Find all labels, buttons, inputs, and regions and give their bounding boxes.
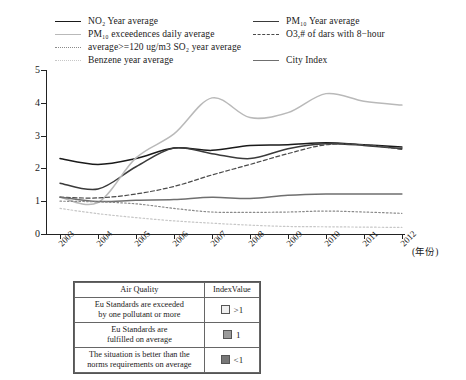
legend-item[interactable]: average>=120 ug/m3 SO₂ year average (55, 41, 241, 54)
table-row: Eu Standards arefulfilled on average1 (75, 323, 260, 348)
table-column-header: IndexValue (204, 283, 259, 298)
air-quality-index-table: Air QualityIndexValueEu Standards are ex… (73, 281, 261, 374)
legend-line-sample-icon (253, 31, 279, 39)
table-row: The situation is better than thenorms re… (75, 348, 260, 373)
index-value-cell: 1 (204, 323, 259, 348)
legend-item-label: NO₂ Year average (88, 16, 158, 27)
air-quality-description: Eu Standards arefulfilled on average (75, 323, 205, 348)
y-axis-tick-label: 3 (26, 131, 40, 141)
y-axis-tick-label: 0 (26, 229, 40, 239)
legend-item-label: PM₁₀ exceedences daily average (88, 29, 214, 40)
legend-item[interactable]: O3,# of dars with 8−hour (253, 28, 385, 41)
air-quality-description: The situation is better than thenorms re… (75, 348, 205, 373)
legend-line-sample-icon (55, 44, 81, 52)
table-column-header: Air Quality (75, 283, 205, 298)
data-series-line (60, 143, 402, 165)
table-header-row: Air QualityIndexValue (75, 283, 260, 298)
index-value-label: <1 (234, 355, 244, 365)
index-value-label: 1 (236, 330, 241, 340)
data-series-line (60, 194, 402, 202)
y-axis-tick (41, 234, 46, 235)
legend-line-sample-icon (55, 18, 81, 26)
y-axis-tick-label: 1 (26, 196, 40, 206)
color-swatch-icon (223, 330, 232, 339)
y-axis-tick-label: 4 (26, 98, 40, 108)
legend-line-sample-icon (253, 18, 279, 26)
x-axis-unit-label: (年份) (412, 244, 438, 258)
color-swatch-icon (221, 305, 230, 314)
y-axis-tick-label: 5 (26, 65, 40, 75)
legend-item[interactable]: PM₁₀ Year average (253, 15, 360, 28)
data-series-line (60, 201, 402, 213)
chart-area: 012345 200320042005200620072008200920102… (0, 62, 466, 262)
color-swatch-icon (221, 355, 230, 364)
legend-item-label: O3,# of dars with 8−hour (286, 29, 385, 40)
data-series-line (60, 208, 402, 227)
data-series-line (60, 93, 402, 204)
legend-item[interactable]: NO₂ Year average (55, 15, 158, 28)
index-value-label: >1 (234, 305, 244, 315)
legend-item-label: average>=120 ug/m3 SO₂ year average (88, 42, 241, 53)
legend-line-sample-icon (55, 31, 81, 39)
index-value-cell: <1 (204, 348, 259, 373)
legend-item[interactable]: PM₁₀ exceedences daily average (55, 28, 214, 41)
table-row: Eu Standards are exceededby one pollutan… (75, 298, 260, 323)
air-quality-description: Eu Standards are exceededby one pollutan… (75, 298, 205, 323)
y-axis-tick-label: 2 (26, 163, 40, 173)
chart-page: NO₂ Year averagePM₁₀ exceedences daily a… (0, 0, 466, 380)
legend-item-label: PM₁₀ Year average (286, 16, 360, 27)
series-lines (46, 70, 405, 234)
index-value-cell: >1 (204, 298, 259, 323)
chart-legend: NO₂ Year averagePM₁₀ exceedences daily a… (0, 0, 466, 68)
data-series-line (60, 144, 402, 190)
